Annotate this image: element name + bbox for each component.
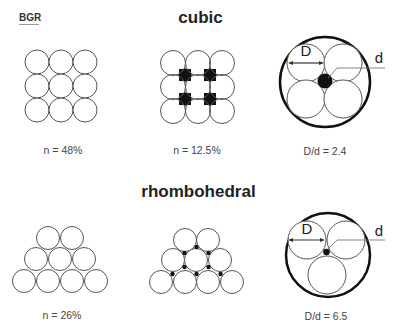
- rhombo-label-d: d: [375, 222, 383, 239]
- rhombo-interstitial-pyramid: [150, 229, 244, 294]
- rhombo-label-D: D: [302, 220, 313, 237]
- cubic-pore-ratio-figure: [280, 37, 385, 127]
- cubic-interstitial-pores: [177, 67, 218, 107]
- pore-d: [323, 249, 330, 256]
- cubic-packing-grid: [25, 50, 97, 122]
- cubic-interstitial-grid: [161, 51, 235, 124]
- caption-cubic-pore-ratio: D/d = 2.4: [265, 145, 385, 157]
- cubic-label-D: D: [301, 42, 312, 59]
- caption-rhombo-pore-ratio: D/d = 6.5: [266, 310, 386, 322]
- rhombo-packing-pyramid: [13, 227, 108, 293]
- caption-rhombo-packing: n = 26%: [2, 309, 122, 321]
- cubic-label-d: d: [375, 49, 383, 66]
- caption-cubic-interstitial: n = 12.5%: [137, 144, 257, 156]
- packing-diagram: D d D d: [0, 0, 397, 328]
- caption-cubic-packing: n = 48%: [3, 144, 123, 156]
